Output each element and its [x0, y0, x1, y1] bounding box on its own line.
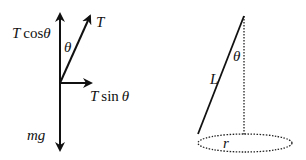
circular-path	[198, 134, 292, 152]
angle-label: θ	[233, 48, 241, 64]
conical-pendulum-diagram: Tcosθ T θ Tsinθ mg L θ r	[0, 0, 306, 160]
radius-label: r	[223, 135, 229, 151]
t-sin-theta-label: Tsinθ	[90, 88, 130, 104]
tension-label: T	[96, 14, 106, 30]
theta-label: θ	[64, 39, 72, 55]
length-label: L	[209, 71, 218, 87]
free-body-diagram: Tcosθ T θ Tsinθ mg	[12, 14, 130, 150]
cone-diagram: L θ r	[198, 16, 292, 152]
weight-label: mg	[27, 127, 46, 143]
string-line	[198, 16, 244, 134]
t-cos-theta-label: Tcosθ	[12, 25, 51, 41]
